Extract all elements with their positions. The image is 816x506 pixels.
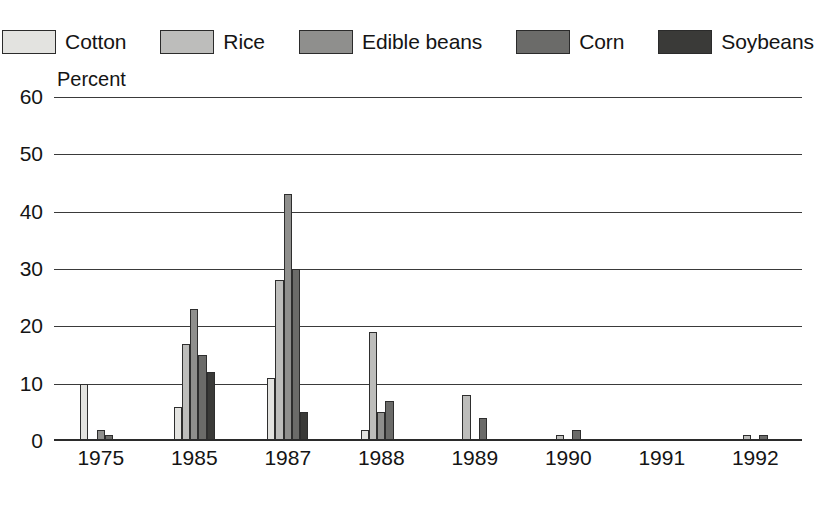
bar-slot xyxy=(300,97,308,441)
bar-slot xyxy=(284,97,292,441)
bar-slot xyxy=(198,97,206,441)
x-tick-label-1988: 1988 xyxy=(358,446,405,470)
y-tick-label: 20 xyxy=(20,314,43,338)
bars-layer xyxy=(54,97,802,441)
bar-edible-beans-1985 xyxy=(190,309,198,441)
bar-slot xyxy=(658,97,666,441)
x-tick-label-1989: 1989 xyxy=(451,446,498,470)
bar-slot xyxy=(674,97,682,441)
bar-cotton-1975 xyxy=(80,384,88,441)
legend-swatch-rice xyxy=(160,30,214,54)
bar-slot xyxy=(471,97,479,441)
x-tick-label-1987: 1987 xyxy=(264,446,311,470)
bar-group-1991 xyxy=(641,97,682,441)
y-tick-label: 40 xyxy=(20,200,43,224)
legend-swatch-soybeans xyxy=(658,30,712,54)
plot-area: 0102030405060 xyxy=(54,97,802,441)
y-axis-title: Percent xyxy=(57,68,126,91)
x-axis-labels: 19751985198719881989199019911992 xyxy=(54,446,802,480)
bar-slot xyxy=(743,97,751,441)
bar-cotton-1987 xyxy=(267,378,275,441)
bar-slot xyxy=(581,97,589,441)
bar-slot xyxy=(487,97,495,441)
bar-slot xyxy=(275,97,283,441)
bar-slot xyxy=(190,97,198,441)
bar-slot xyxy=(361,97,369,441)
bar-slot xyxy=(735,97,743,441)
bar-corn-1989 xyxy=(479,418,487,441)
bar-slot xyxy=(174,97,182,441)
legend-label: Soybeans xyxy=(721,30,814,54)
x-tick-label-1985: 1985 xyxy=(171,446,218,470)
bar-soybeans-1985 xyxy=(207,372,215,441)
bar-slot xyxy=(88,97,96,441)
bar-slot xyxy=(751,97,759,441)
bar-rice-1988 xyxy=(369,332,377,441)
bar-group-1990 xyxy=(548,97,589,441)
bar-slot xyxy=(564,97,572,441)
bar-slot xyxy=(369,97,377,441)
x-tick-label-1991: 1991 xyxy=(638,446,685,470)
bar-slot xyxy=(641,97,649,441)
bar-slot xyxy=(556,97,564,441)
bar-soybeans-1987 xyxy=(300,412,308,441)
legend-swatch-corn xyxy=(516,30,570,54)
bar-edible-beans-1988 xyxy=(377,412,385,441)
bar-corn-1988 xyxy=(385,401,393,441)
bar-slot xyxy=(80,97,88,441)
x-tick-label-1990: 1990 xyxy=(545,446,592,470)
bar-group-1985 xyxy=(174,97,215,441)
bar-slot xyxy=(759,97,767,441)
bar-corn-1985 xyxy=(198,355,206,441)
bar-slot xyxy=(454,97,462,441)
bar-group-1989 xyxy=(454,97,495,441)
bar-rice-1989 xyxy=(462,395,470,441)
bar-slot xyxy=(479,97,487,441)
bar-edible-beans-1987 xyxy=(284,194,292,441)
bar-corn-1987 xyxy=(292,269,300,441)
bar-slot xyxy=(182,97,190,441)
legend-item: Corn xyxy=(516,30,624,54)
y-tick-label: 50 xyxy=(20,142,43,166)
bar-slot xyxy=(385,97,393,441)
bar-slot xyxy=(377,97,385,441)
legend-label: Cotton xyxy=(65,30,126,54)
legend-label: Edible beans xyxy=(362,30,482,54)
x-axis-line xyxy=(54,439,802,441)
bar-slot xyxy=(572,97,580,441)
bar-chart-figure: CottonRiceEdible beansCornSoybeans Perce… xyxy=(0,0,816,506)
bar-slot xyxy=(97,97,105,441)
legend-item: Soybeans xyxy=(658,30,814,54)
bar-slot xyxy=(768,97,776,441)
legend-label: Rice xyxy=(223,30,265,54)
y-tick-label: 30 xyxy=(20,257,43,281)
bar-slot xyxy=(649,97,657,441)
bar-group-1992 xyxy=(735,97,776,441)
bar-slot xyxy=(394,97,402,441)
bar-group-1987 xyxy=(267,97,308,441)
legend-label: Corn xyxy=(579,30,624,54)
bar-slot xyxy=(292,97,300,441)
bar-slot xyxy=(548,97,556,441)
bar-rice-1985 xyxy=(182,344,190,441)
y-tick-label: 10 xyxy=(20,372,43,396)
bar-group-1975 xyxy=(80,97,121,441)
legend-item: Rice xyxy=(160,30,265,54)
bar-cotton-1985 xyxy=(174,407,182,441)
chart-legend: CottonRiceEdible beansCornSoybeans xyxy=(0,22,816,62)
legend-item: Cotton xyxy=(2,30,126,54)
x-tick-label-1975: 1975 xyxy=(77,446,124,470)
legend-swatch-edible-beans xyxy=(299,30,353,54)
bar-group-1988 xyxy=(361,97,402,441)
bar-slot xyxy=(113,97,121,441)
y-tick-label: 0 xyxy=(31,429,43,453)
bar-slot xyxy=(666,97,674,441)
bar-slot xyxy=(462,97,470,441)
x-tick-label-1992: 1992 xyxy=(732,446,779,470)
legend-item: Edible beans xyxy=(299,30,482,54)
y-tick-label: 60 xyxy=(20,85,43,109)
bar-slot xyxy=(207,97,215,441)
bar-slot xyxy=(105,97,113,441)
legend-swatch-cotton xyxy=(2,30,56,54)
bar-slot xyxy=(267,97,275,441)
